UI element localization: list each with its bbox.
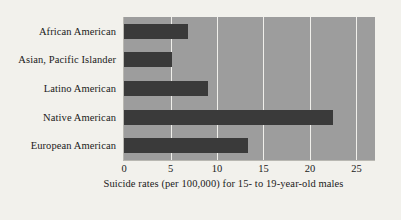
y-axis-label-3: Native American bbox=[43, 103, 116, 132]
bar-native-american bbox=[124, 110, 333, 125]
x-tick-10: 10 bbox=[212, 162, 223, 176]
bar-row bbox=[124, 131, 248, 160]
bar-african-american bbox=[124, 24, 188, 39]
x-tick-15: 15 bbox=[258, 162, 269, 176]
bar-series bbox=[124, 17, 375, 160]
y-axis-label-1: Asian, Pacific Islander bbox=[18, 46, 116, 75]
chart-figure: African American Asian, Pacific Islander… bbox=[0, 0, 401, 220]
bar-row bbox=[124, 17, 188, 46]
x-tick-0: 0 bbox=[121, 162, 126, 176]
x-tick-20: 20 bbox=[305, 162, 316, 176]
y-axis-label-4: European American bbox=[31, 131, 116, 160]
bar-row bbox=[124, 103, 333, 132]
bar-latino-american bbox=[124, 81, 208, 96]
y-axis-label-0: African American bbox=[39, 17, 116, 46]
x-axis-title: Suicide rates (per 100,000) for 15- to 1… bbox=[0, 178, 401, 189]
x-tick-5: 5 bbox=[168, 162, 173, 176]
y-axis-category-labels: African American Asian, Pacific Islander… bbox=[0, 17, 120, 160]
plot-area bbox=[124, 17, 375, 160]
bar-european-american bbox=[124, 138, 248, 153]
bar-asian-pacific-islander bbox=[124, 52, 172, 67]
x-tick-25: 25 bbox=[351, 162, 362, 176]
y-axis-label-2: Latino American bbox=[44, 74, 116, 103]
x-axis-line bbox=[124, 160, 375, 161]
x-axis-tick-labels: 0 5 10 15 20 25 bbox=[124, 162, 375, 176]
y-axis-line bbox=[123, 17, 124, 161]
bar-row bbox=[124, 46, 172, 75]
bar-row bbox=[124, 74, 208, 103]
